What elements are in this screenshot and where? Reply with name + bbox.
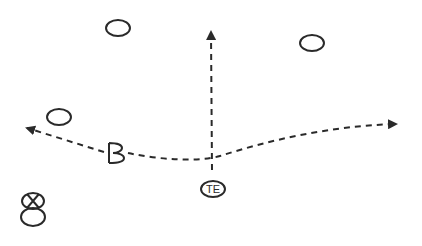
play-diagram: TE xyxy=(0,0,422,246)
route-crossing-right xyxy=(128,124,396,160)
player-te-label: TE xyxy=(206,183,220,195)
play-diagram-svg: TE xyxy=(0,0,422,246)
player-qb-bottom-circle xyxy=(21,208,45,226)
player-circle-left xyxy=(47,109,71,125)
route-vertical xyxy=(211,32,212,170)
player-circle-top-left xyxy=(106,20,130,36)
player-circle-top-right xyxy=(300,35,324,51)
route-left-flat xyxy=(27,128,104,152)
player-b-glyph xyxy=(109,143,124,163)
player-qb-x-icon xyxy=(27,194,39,208)
